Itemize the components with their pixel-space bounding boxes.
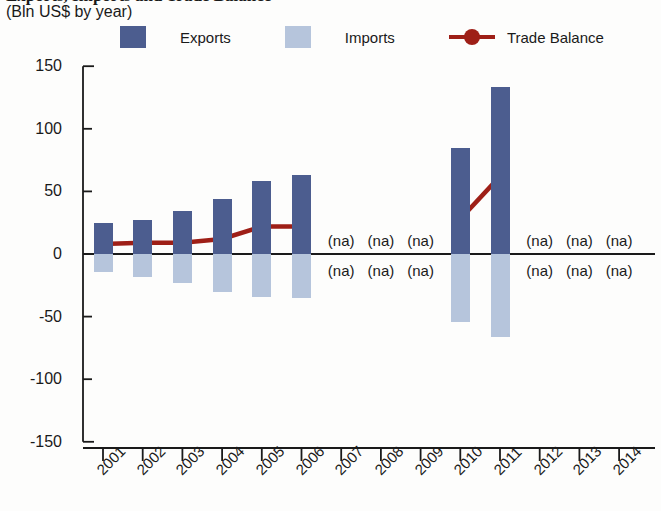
bar-imports — [173, 254, 192, 283]
bar-imports — [252, 254, 271, 297]
bar-exports — [451, 148, 470, 254]
bar-exports — [491, 87, 510, 254]
bar-exports — [133, 220, 152, 254]
bar-exports — [173, 211, 192, 254]
missing-data-label: (na) — [526, 262, 553, 279]
bar-imports — [94, 254, 113, 272]
bar-imports — [133, 254, 152, 277]
bar-exports — [252, 181, 271, 254]
y-axis-tick-label: 150 — [14, 58, 62, 74]
missing-data-label: (na) — [566, 232, 593, 249]
chart-plot-area: 150100500-50-100-15020012002200320042005… — [0, 0, 661, 511]
missing-data-label: (na) — [606, 232, 633, 249]
missing-data-label: (na) — [407, 232, 434, 249]
y-axis-tick-label: -50 — [14, 309, 62, 325]
bar-exports — [213, 199, 232, 254]
y-axis-tick-label: -150 — [14, 434, 62, 450]
missing-data-label: (na) — [328, 232, 355, 249]
y-axis-tick-label: 0 — [14, 246, 62, 262]
bar-imports — [292, 254, 311, 298]
missing-data-label: (na) — [368, 232, 395, 249]
bar-imports — [213, 254, 232, 292]
bar-imports — [451, 254, 470, 322]
missing-data-label: (na) — [407, 262, 434, 279]
bar-imports — [491, 254, 510, 337]
y-axis-tick-label: -100 — [14, 371, 62, 387]
missing-data-label: (na) — [368, 262, 395, 279]
bar-exports — [94, 223, 113, 254]
missing-data-label: (na) — [328, 262, 355, 279]
missing-data-label: (na) — [566, 262, 593, 279]
missing-data-label: (na) — [526, 232, 553, 249]
missing-data-label: (na) — [606, 262, 633, 279]
bar-exports — [292, 175, 311, 254]
y-axis-tick-label: 50 — [14, 183, 62, 199]
y-axis-tick-label: 100 — [14, 121, 62, 137]
